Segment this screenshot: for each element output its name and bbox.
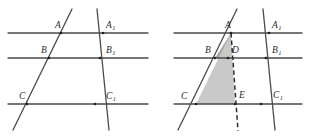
point-label-E: E	[238, 90, 245, 100]
point-label-C: C	[19, 91, 26, 101]
point-marker-B	[48, 57, 51, 60]
left-diagram: AA1BB1CC1	[8, 9, 148, 130]
point-label-B1: B1	[106, 45, 115, 56]
point-label-A: A	[54, 20, 61, 30]
point-marker-A	[60, 32, 63, 35]
point-marker-B	[214, 57, 217, 60]
point-marker-A	[230, 32, 233, 35]
point-marker-C	[26, 103, 29, 106]
point-marker-C1	[94, 103, 97, 106]
point-marker-A1	[102, 32, 105, 35]
shaded-region-triangle-A-C-E	[196, 33, 235, 104]
point-marker-A1	[268, 32, 271, 35]
point-label-C: C	[181, 91, 188, 101]
point-label-D: D	[231, 45, 239, 55]
geometry-figure-root: AA1BB1CC1 AA1BDB1CEC1	[0, 0, 309, 139]
point-marker-B1	[99, 57, 102, 60]
point-label-B: B	[41, 45, 47, 55]
point-label-A: A	[224, 20, 231, 30]
point-label-B1: B1	[272, 45, 281, 56]
point-marker-B1	[265, 57, 268, 60]
point-marker-C	[195, 103, 198, 106]
point-label-A1: A1	[105, 20, 115, 31]
point-label-C1: C1	[106, 91, 116, 102]
point-marker-D	[227, 57, 230, 60]
point-label-A1: A1	[271, 20, 281, 31]
point-marker-C1	[260, 103, 263, 106]
right-diagram: AA1BDB1CEC1	[174, 9, 302, 131]
geometry-figure-canvas: AA1BB1CC1 AA1BDB1CEC1	[0, 0, 309, 139]
point-label-B: B	[205, 45, 211, 55]
transversal-transversal-left	[13, 9, 72, 130]
point-marker-E	[234, 103, 237, 106]
point-label-C1: C1	[273, 90, 283, 101]
